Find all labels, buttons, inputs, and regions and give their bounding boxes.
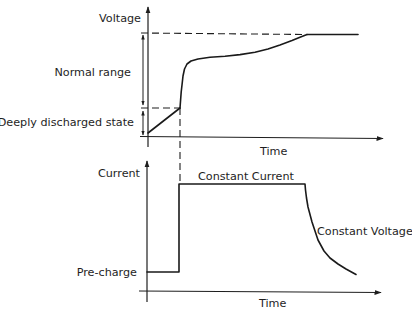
voltage-axis-label: Voltage (99, 12, 141, 25)
voltage-time-axis-label: Time (259, 145, 287, 158)
current-time-axis-label: Time (258, 297, 286, 310)
background (0, 0, 412, 317)
pre-charge-label: Pre-charge (77, 266, 137, 279)
constant-voltage-label: Constant Voltage (317, 225, 412, 238)
constant-current-label: Constant Current (198, 170, 294, 183)
current-axis-label: Current (98, 167, 141, 180)
charging-profile-diagram: Voltage Normal range Deeply discharged s… (0, 0, 412, 317)
deeply-discharged-label: Deeply discharged state (0, 116, 134, 129)
normal-range-label: Normal range (54, 66, 131, 79)
